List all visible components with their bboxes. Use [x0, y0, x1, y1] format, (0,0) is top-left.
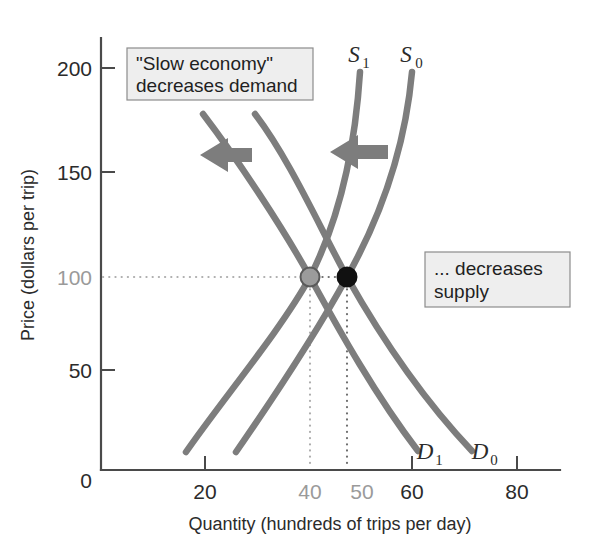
curve-label-S1: S 1 [348, 42, 370, 71]
supply-shift-callout-line1: ... decreases [434, 258, 543, 279]
supply-shift-arrow-icon [330, 135, 388, 169]
curve-label-S1-text: S [348, 42, 360, 67]
curve-label-S1-subscript: 1 [362, 55, 370, 71]
x-tick-label-80: 80 [505, 480, 528, 503]
shift-arrows [200, 135, 388, 172]
x-tick-label-50: 50 [350, 480, 373, 503]
curve-label-S0-text: S [400, 42, 412, 67]
curve-label-S0-subscript: 0 [415, 55, 423, 71]
y-tick-label-50: 50 [69, 359, 92, 382]
demand-shift-callout-line1: "Slow economy" [136, 53, 273, 74]
curve-label-D0-text: D [471, 439, 489, 464]
y-tick-label-200: 200 [57, 57, 92, 80]
y-tick-label-0: 0 [80, 469, 92, 492]
supply-demand-figure: 200 150 100 50 0 20 40 50 60 80 Quantity… [0, 0, 593, 560]
original-equilibrium-point [338, 268, 357, 287]
x-tick-label-60: 60 [400, 480, 423, 503]
x-axis-ticks [205, 456, 517, 470]
x-axis-title: Quantity (hundreds of trips per day) [188, 514, 471, 534]
curve-label-D1-subscript: 1 [435, 452, 443, 468]
supply-shift-callout: ... decreases supply [425, 252, 570, 307]
y-axis-ticks [101, 68, 115, 370]
supply-shift-callout-line2: supply [434, 281, 489, 302]
x-tick-label-40: 40 [298, 480, 321, 503]
guide-lines [103, 277, 348, 468]
curve-label-S0: S 0 [400, 42, 423, 71]
x-tick-label-20: 20 [193, 480, 216, 503]
y-tick-label-100: 100 [57, 266, 92, 289]
y-tick-label-150: 150 [57, 161, 92, 184]
y-axis-title: Price (dollars per trip) [18, 169, 38, 341]
demand-shift-callout-line2: decreases demand [136, 75, 298, 96]
curve-label-D0: D 0 [471, 439, 498, 468]
new-equilibrium-point [301, 268, 320, 287]
demand-shift-callout: "Slow economy" decreases demand [127, 48, 313, 100]
curve-label-D0-subscript: 0 [490, 452, 498, 468]
curve-label-D1: D 1 [416, 439, 443, 468]
y-axis-tick-labels: 200 150 100 50 0 [57, 57, 92, 492]
curve-label-D1-text: D [416, 439, 434, 464]
x-axis-tick-labels: 20 40 50 60 80 [193, 480, 528, 503]
